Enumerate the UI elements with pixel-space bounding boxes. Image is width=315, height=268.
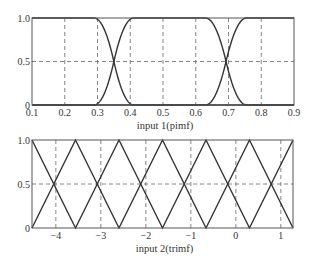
- membership-curve-family-A: [32, 140, 293, 228]
- grid-lines: [32, 140, 293, 228]
- x-tick-label: −3: [96, 230, 107, 241]
- membership-curve-family-B: [32, 140, 293, 228]
- x-tick-label: 0.6: [190, 107, 203, 118]
- y-tick-label: 0: [25, 223, 30, 234]
- y-tick-label: 1.0: [18, 13, 31, 24]
- membership-function-figure: 00.51.0 0.10.20.30.40.50.60.70.80.9 inpu…: [0, 0, 315, 268]
- axes-frame: [32, 140, 293, 228]
- x-axis-label: input 1(pimf): [137, 120, 194, 132]
- x-tick-label: −4: [51, 230, 62, 241]
- x-tick-label: 0: [233, 230, 238, 241]
- x-axis-label: input 2(trimf): [136, 243, 194, 255]
- plot-input1-pimf: 00.51.0 0.10.20.30.40.50.60.70.80.9 inpu…: [18, 13, 301, 133]
- x-tick-label: 0.7: [222, 107, 235, 118]
- x-tick-label: −2: [141, 230, 152, 241]
- x-tick-label: 0.3: [91, 107, 104, 118]
- y-tick-label: 1.0: [18, 135, 31, 146]
- y-tick-label: 0.5: [18, 56, 31, 67]
- x-tick-label: 0.5: [157, 107, 170, 118]
- x-tick-label: 0.9: [288, 107, 301, 118]
- y-tick-labels: 00.51.0: [18, 135, 31, 234]
- x-tick-label: 0.8: [255, 107, 268, 118]
- x-tick-label: −1: [186, 230, 197, 241]
- x-tick-label: 0.2: [59, 107, 72, 118]
- x-tick-label: 0.4: [124, 107, 137, 118]
- membership-curves: [32, 140, 293, 228]
- plot-input2-trimf: 00.51.0 −4−3−2−101 input 2(trimf): [18, 135, 294, 256]
- x-tick-label: 0.1: [26, 107, 39, 118]
- y-tick-label: 0.5: [18, 179, 31, 190]
- x-tick-label: 1: [278, 230, 283, 241]
- x-tick-labels: 0.10.20.30.40.50.60.70.80.9: [26, 107, 301, 118]
- y-tick-labels: 00.51.0: [18, 13, 31, 111]
- x-tick-labels: −4−3−2−101: [51, 230, 284, 241]
- grid-lines: [32, 18, 294, 105]
